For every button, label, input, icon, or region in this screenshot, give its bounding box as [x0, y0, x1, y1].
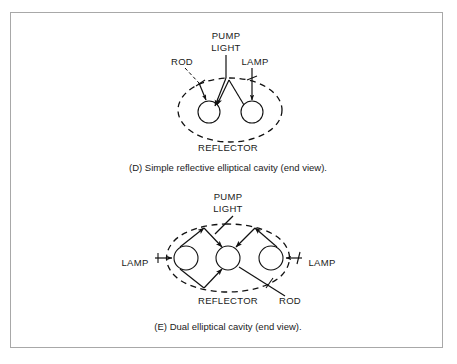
- panel-e-rod-label: ROD: [279, 295, 301, 306]
- panel-d-light-label: LIGHT: [211, 42, 240, 53]
- panel-e-pump-leader: [215, 216, 233, 234]
- panel-e-ray-ur-down: [236, 228, 255, 247]
- panel-d-pump-ray: [215, 78, 226, 106]
- panel-d-rod-label: ROD: [171, 56, 193, 67]
- panel-e-rod-circle: [216, 246, 240, 270]
- panel-d-lamp-label: LAMP: [241, 56, 268, 67]
- panel-e-light-label: LIGHT: [213, 203, 242, 214]
- panel-e-ray-ur-up: [255, 228, 277, 247]
- panel-e-ray-ul-up: [180, 228, 204, 247]
- panel-d-pump-label: PUMP: [212, 30, 241, 41]
- panel-e-lamp-left-circle: [174, 246, 198, 270]
- panel-e-lamp-left-label: LAMP: [121, 257, 148, 268]
- panel-d-ray-top-to-rod: [217, 80, 229, 105]
- panel-e-pump-label: PUMP: [214, 191, 243, 202]
- panel-d-lamp-circle: [241, 101, 263, 123]
- panel-e-ray-ll-up: [204, 269, 222, 288]
- panel-d-reflector-label: REFLECTOR: [198, 142, 258, 153]
- laser-cavity-diagram: PUMP LIGHT ROD LAMP REFLECTOR: [0, 0, 457, 364]
- panel-e-caption: (E) Dual elliptical cavity (end view).: [154, 321, 301, 332]
- panel-e-ray-ll-down: [180, 269, 204, 288]
- panel-e-lamp-right-circle: [259, 246, 283, 270]
- panel-d-reflector-ellipse: [178, 78, 282, 142]
- panel-e-rod-leader: [239, 267, 285, 296]
- figure-root: PUMP LIGHT ROD LAMP REFLECTOR: [0, 0, 457, 364]
- panel-e: PUMP LIGHT LAMP LAMP REFLECTOR ROD: [121, 191, 335, 332]
- panel-e-reflector-label: REFLECTOR: [198, 295, 258, 306]
- panel-d-rod-leader-dashed: [185, 68, 199, 83]
- panel-d-caption: (D) Simple reflective elliptical cavity …: [129, 162, 327, 173]
- panel-e-ray-ul-down: [204, 228, 222, 247]
- panel-d: PUMP LIGHT ROD LAMP REFLECTOR: [129, 30, 327, 173]
- panel-d-ray-lamp-to-top: [229, 80, 244, 105]
- panel-e-lamp-right-label: LAMP: [308, 257, 335, 268]
- panel-d-rod-leader-arrow: [199, 83, 206, 100]
